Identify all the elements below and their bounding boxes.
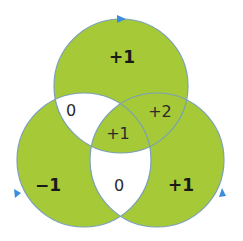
- label-center: +1: [106, 124, 130, 143]
- arrow-right-icon: [219, 188, 226, 197]
- label-top-left: 0: [66, 101, 76, 120]
- label-left-right: 0: [114, 176, 124, 195]
- venn-svg: +1 −1 +1 0 +2 +1 0: [0, 0, 243, 241]
- label-right-only: +1: [168, 175, 194, 195]
- label-top-right: +2: [148, 102, 172, 121]
- arrow-left-icon: [14, 189, 21, 198]
- venn-diagram: +1 −1 +1 0 +2 +1 0: [0, 0, 243, 241]
- label-left-only: −1: [35, 175, 61, 195]
- label-top-only: +1: [109, 47, 135, 67]
